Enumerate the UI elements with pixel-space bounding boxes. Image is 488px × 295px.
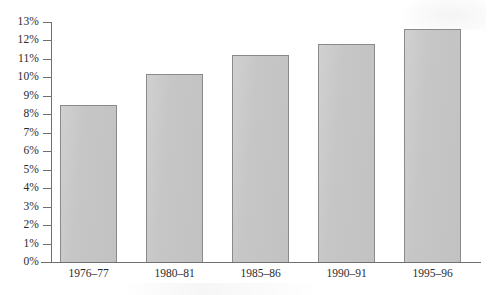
bar-1976-77	[60, 105, 117, 262]
x-axis-label: 1976–77	[48, 268, 129, 280]
x-axis-label: 1990–91	[306, 268, 387, 280]
x-axis-label: 1980–81	[134, 268, 215, 280]
bar-1980-81	[146, 74, 203, 262]
x-axis-label: 1995–96	[392, 268, 473, 280]
x-axis-label: 1985–86	[220, 268, 301, 280]
bar-1995-96	[404, 29, 461, 262]
bar-1990-91	[318, 44, 375, 262]
bar-1985-86	[232, 55, 289, 262]
